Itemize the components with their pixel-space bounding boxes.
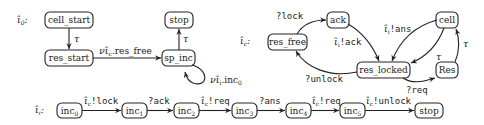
state-sp-inc: sp_inc xyxy=(162,50,195,66)
svg-text:ack: ack xyxy=(330,15,346,25)
automaton-iota-0: ι̂0: cell_start res_start sp_inc stop τ … xyxy=(17,12,242,86)
edge-label: τ xyxy=(436,51,442,62)
state-inc4: inc4 xyxy=(286,103,311,118)
svg-text:stop: stop xyxy=(419,106,439,116)
edge-label: τ xyxy=(183,33,189,44)
edge-label: ?lock xyxy=(276,11,304,21)
edge-label: ι̂i!ack xyxy=(334,36,362,48)
edge-label: ?ans xyxy=(259,96,281,106)
state-res-free: res_free xyxy=(268,34,307,50)
svg-text:stop: stop xyxy=(169,15,189,25)
svg-text:res_start: res_start xyxy=(49,53,90,64)
svg-text:Res: Res xyxy=(439,65,456,75)
state-inc2: inc2 xyxy=(174,103,199,118)
automaton-iota-i: ι̂i: inc0 inc1 inc2 inc3 inc4 inc5 stop xyxy=(35,95,443,118)
state-inc5: inc5 xyxy=(340,103,365,118)
automaton-label: ι̂i: xyxy=(35,104,44,116)
state-cell-start: cell_start xyxy=(45,12,93,28)
automaton-label: ι̂c: xyxy=(240,35,251,47)
edge-res-free-to-ack xyxy=(297,20,326,34)
automaton-iota-c: ι̂c: res_free ack res_locked cell Res ?l… xyxy=(240,11,469,95)
edge-sp-inc-self-loop xyxy=(185,65,205,84)
edge-label: νι̂c.res_free xyxy=(99,45,152,57)
edge-label: νι̂i.inc0 xyxy=(210,74,242,86)
automaton-label: ι̂0: xyxy=(17,14,28,26)
edge-res-locked-to-res xyxy=(403,78,435,82)
edge-label: ι̂c!unlock xyxy=(366,95,412,107)
diagram-canvas: ι̂0: cell_start res_start sp_inc stop τ … xyxy=(0,0,484,125)
state-stop: stop xyxy=(165,12,193,28)
state-inc1: inc1 xyxy=(122,103,147,118)
state-inc3: inc3 xyxy=(232,103,257,118)
edge-label: ?req xyxy=(406,85,428,95)
edge-label: ι̂i!ans xyxy=(384,23,412,35)
edge-label: ι̂c!req xyxy=(201,95,230,107)
edge-res-to-cell xyxy=(455,29,459,62)
svg-text:res_locked: res_locked xyxy=(359,65,408,76)
state-res-locked: res_locked xyxy=(357,62,410,78)
svg-text:cell: cell xyxy=(439,15,455,25)
state-res-start: res_start xyxy=(45,50,93,66)
svg-text:sp_inc: sp_inc xyxy=(164,53,193,64)
svg-text:cell_start: cell_start xyxy=(48,15,91,26)
state-ack: ack xyxy=(327,12,349,28)
edge-label: ?unlock xyxy=(305,74,344,84)
state-inc0: inc0 xyxy=(57,103,82,118)
state-cell: cell xyxy=(436,12,458,28)
state-stop-i: stop xyxy=(415,103,443,118)
edge-label: ?ack xyxy=(148,96,170,106)
edge-label: τ xyxy=(463,38,469,49)
edge-res-locked-to-res-free xyxy=(296,51,357,74)
edge-label: ι̂c!lock xyxy=(84,95,119,107)
svg-text:res_free: res_free xyxy=(269,37,306,48)
edge-label: τ xyxy=(74,33,80,44)
edge-label: ι̂c!req xyxy=(312,95,341,107)
state-res: Res xyxy=(436,62,458,78)
